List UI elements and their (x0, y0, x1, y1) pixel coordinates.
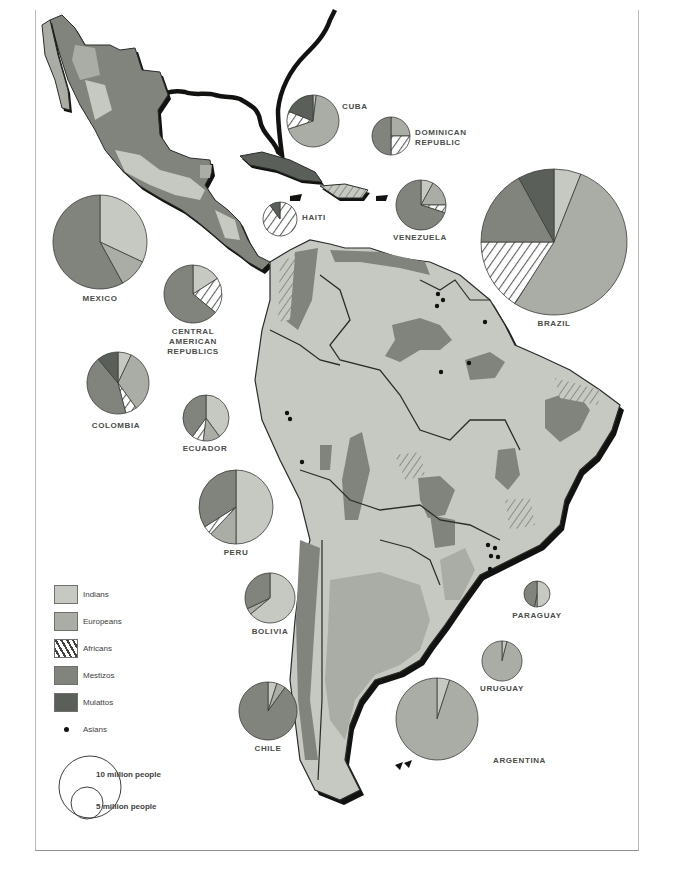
country-label: DOMINICANREPUBLIC (415, 128, 467, 148)
country-label: MEXICO (82, 294, 117, 304)
pie-slice-africans (391, 136, 410, 155)
country-label: ECUADOR (183, 444, 228, 454)
legend-item-mestizos: Mestizos (54, 666, 122, 685)
legend-item-africans: Africans (54, 639, 122, 658)
latin-america-ethnic-map (0, 0, 673, 880)
europeans-swatch (54, 612, 78, 631)
country-label-line: CENTRAL (167, 327, 219, 337)
pie-slice-europeans (396, 678, 478, 760)
pie-slice-mestizos (372, 117, 391, 155)
pie-slice-indians (236, 470, 273, 544)
country-label-line: MEXICO (82, 294, 117, 304)
pie-slice-europeans (391, 117, 410, 136)
pie-cuba (287, 95, 339, 147)
legend-label: Indians (83, 590, 109, 599)
country-label: BRAZIL (538, 319, 571, 329)
legend-label: Asians (83, 725, 107, 734)
pie-slice-indians (537, 581, 550, 607)
pie-peru (199, 470, 273, 544)
scale-label-10m: 10 million people (96, 770, 161, 779)
country-label: PERU (224, 548, 249, 558)
pie-slice-mestizos (524, 581, 537, 607)
legend-item-mulattos: Mulattos (54, 693, 122, 712)
pie-colombia (87, 352, 149, 414)
country-label: CUBA (342, 102, 368, 112)
country-label: COLOMBIA (92, 421, 140, 431)
africans-swatch (54, 639, 78, 658)
pie-slice-mestizos (239, 682, 297, 740)
pie-uruguay (482, 641, 522, 681)
country-label: URUGUAY (480, 684, 524, 694)
legend-label: Europeans (83, 617, 122, 626)
country-label: CHILE (255, 744, 282, 754)
pie-dominican-republic (372, 117, 410, 155)
pie-ecuador (183, 395, 229, 441)
legend: Indians Europeans Africans Mestizos Mula… (54, 585, 122, 747)
country-label-line: ARGENTINA (493, 756, 546, 766)
country-label-line: CUBA (342, 102, 368, 112)
legend-item-europeans: Europeans (54, 612, 122, 631)
country-label-line: BRAZIL (538, 319, 571, 329)
country-label: BOLIVIA (252, 627, 289, 637)
country-label-line: HAITI (302, 213, 326, 223)
pie-haiti (263, 202, 297, 236)
country-label-line: URUGUAY (480, 684, 524, 694)
pie-brazil (481, 169, 627, 315)
country-label-line: REPUBLICS (167, 347, 219, 357)
pie-bolivia (245, 573, 295, 623)
country-label-line: AMERICAN (167, 337, 219, 347)
pie-venezuela (396, 180, 446, 230)
pie-mexico (53, 195, 147, 289)
country-label: VENEZUELA (393, 233, 447, 243)
pie-paraguay (524, 581, 550, 607)
indians-swatch (54, 585, 78, 604)
legend-label: Africans (83, 644, 112, 653)
pie-argentina (396, 678, 478, 760)
pie-central-american-republics (164, 265, 222, 323)
country-label-line: REPUBLIC (415, 138, 467, 148)
country-label-line: DOMINICAN (415, 128, 467, 138)
pie-slice-europeans (482, 641, 522, 681)
scale-label-5m: 5 million people (96, 802, 156, 811)
pie-chile (239, 682, 297, 740)
country-label-line: PERU (224, 548, 249, 558)
country-label-line: PARAGUAY (512, 611, 561, 621)
country-label-line: CHILE (255, 744, 282, 754)
country-label-line: BOLIVIA (252, 627, 289, 637)
country-label-line: VENEZUELA (393, 233, 447, 243)
legend-label: Mulattos (83, 698, 113, 707)
legend-item-indians: Indians (54, 585, 122, 604)
country-label: CENTRALAMERICANREPUBLICS (167, 327, 219, 357)
country-label-line: COLOMBIA (92, 421, 140, 431)
caribbean-islands (240, 152, 388, 201)
mestizos-swatch (54, 666, 78, 685)
country-label: PARAGUAY (512, 611, 561, 621)
country-label: ARGENTINA (493, 756, 546, 766)
legend-item-asians: Asians (54, 720, 122, 739)
country-label-line: ECUADOR (183, 444, 228, 454)
legend-label: Mestizos (83, 671, 115, 680)
asians-dot-icon (54, 727, 78, 732)
mulattos-swatch (54, 693, 78, 712)
country-label: HAITI (302, 213, 326, 223)
